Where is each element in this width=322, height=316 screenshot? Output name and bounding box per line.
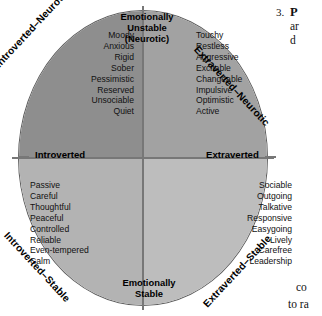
axis-label-line: Stable [108,288,190,299]
trait-word: Pessimistic [14,74,134,85]
axis-label-line: Emotionally [106,11,188,22]
trait-word: Lively [172,235,292,246]
trait-word: Sober [14,63,134,74]
page-text-item-number: 3. [276,6,284,18]
page-text-line-3: d [290,34,296,46]
axis-label-extraverted: Extraverted [203,149,262,160]
trait-list-extraverted-stable: Sociable Outgoing Talkative Responsive E… [172,180,292,267]
trait-word: Even-tempered [30,245,150,256]
axis-label-emotionally-stable: Emotionally Stable [108,277,190,299]
axis-label-line: Unstable [106,22,188,33]
trait-word: Thoughtful [30,202,150,213]
trait-list-introverted-stable: Passive Careful Thoughtful Peaceful Cont… [30,180,150,267]
trait-word: Impulsive [196,85,316,96]
trait-word: Passive [30,180,150,191]
trait-word: Rigid [14,52,134,63]
trait-word: Carefree [172,245,292,256]
axis-label-line: Emotionally [108,277,190,288]
axis-label-line: (Neurotic) [106,33,188,44]
page-text-bottom-line-2: to ra [288,298,309,310]
page-text-bottom-line-1: co [296,281,307,293]
trait-word: Controlled [30,224,150,235]
trait-word: Quiet [14,106,134,117]
axis-label-emotionally-unstable: Emotionally Unstable (Neurotic) [106,11,188,45]
trait-word: Reserved [14,85,134,96]
axis-label-introverted: Introverted [32,149,88,160]
eysenck-personality-circumplex-figure: Moody Anxious Rigid Sober Pessimistic Re… [0,0,322,316]
trait-word: Talkative [172,202,292,213]
page-text-line-2: ar [290,20,299,32]
trait-word: Outgoing [172,191,292,202]
trait-word: Easygoing [172,224,292,235]
trait-word: Leadership [172,256,292,267]
trait-word: Responsive [172,213,292,224]
trait-word: Peaceful [30,213,150,224]
trait-word: Reliable [30,235,150,246]
trait-word: Unsociable [14,95,134,106]
trait-word: Calm [30,256,150,267]
trait-word: Sociable [172,180,292,191]
trait-word: Restless [196,41,316,52]
trait-word: Careful [30,191,150,202]
page-text-line-1: P [290,5,298,20]
